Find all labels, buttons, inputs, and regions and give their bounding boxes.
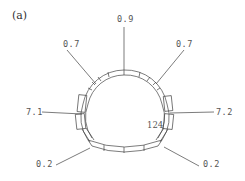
panel-label: (a) <box>12 10 27 21</box>
ring-diagram <box>0 0 245 181</box>
left-box-upper <box>77 95 87 113</box>
callout-upper-left: 0.7 <box>63 40 80 49</box>
callout-upper-right: 0.7 <box>176 40 193 49</box>
callout-left: 7.1 <box>26 108 43 117</box>
callout-right: 7.2 <box>216 108 233 117</box>
leader-upper-right <box>156 50 184 84</box>
leader-lower-left <box>56 148 90 165</box>
right-box-lower <box>163 114 174 130</box>
leader-left <box>42 112 82 114</box>
ring-bottom-outer <box>88 140 162 147</box>
leader-right <box>170 112 214 113</box>
callout-lower-left: 0.2 <box>36 160 53 169</box>
center-value: 124 <box>147 121 163 130</box>
callout-lower-right: 0.2 <box>203 160 220 169</box>
callout-top: 0.9 <box>117 15 134 24</box>
leader-lower-right <box>164 147 199 166</box>
leader-upper-left <box>67 50 96 84</box>
